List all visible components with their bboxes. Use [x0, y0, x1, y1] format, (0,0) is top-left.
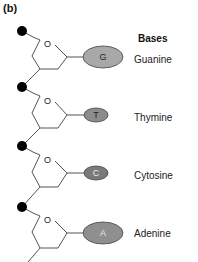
- base-name-thymine: Thymine: [134, 112, 172, 123]
- phosphate-icon: [17, 141, 27, 151]
- base-letter-a: A: [100, 228, 106, 238]
- base-letter-g: G: [99, 52, 106, 62]
- ring-oxygen-1: O: [44, 39, 51, 49]
- base-name-cytosine: Cytosine: [134, 170, 173, 181]
- phosphate-icon: [17, 26, 27, 36]
- base-letter-t: T: [93, 110, 99, 120]
- base-letter-c: C: [93, 168, 100, 178]
- ring-oxygen-3: O: [44, 155, 51, 165]
- ring-oxygen-4: O: [44, 215, 51, 225]
- ring-oxygen-2: O: [44, 96, 51, 106]
- base-name-guanine: Guanine: [134, 54, 172, 65]
- base-name-adenine: Adenine: [134, 228, 171, 239]
- dna-strand-diagram: O O O O G T C A: [0, 0, 198, 262]
- phosphate-icon: [17, 82, 27, 92]
- phosphate-icon: [17, 202, 27, 212]
